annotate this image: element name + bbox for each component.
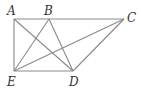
label-E: E bbox=[6, 75, 16, 89]
label-B: B bbox=[43, 4, 53, 18]
segment-DC bbox=[73, 19, 124, 71]
label-D: D bbox=[68, 75, 79, 89]
label-C: C bbox=[127, 11, 136, 25]
label-A: A bbox=[6, 4, 16, 18]
geometry-diagram: A B C E D bbox=[0, 0, 141, 89]
